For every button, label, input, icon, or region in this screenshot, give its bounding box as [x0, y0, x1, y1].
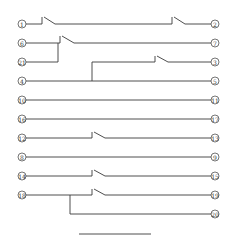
svg-text:15: 15	[211, 173, 219, 180]
svg-text:14: 14	[18, 173, 26, 180]
svg-text:12: 12	[18, 135, 26, 142]
circuit-3-4-5	[26, 56, 211, 81]
terminal-left-4: 4	[18, 77, 26, 85]
svg-text:4: 4	[20, 78, 24, 85]
terminal-right-15: 15	[211, 172, 219, 180]
svg-text:6: 6	[20, 40, 24, 47]
terminal-left-12: 12	[18, 134, 26, 142]
svg-text:9: 9	[213, 154, 217, 161]
circuit-12-13	[26, 132, 211, 138]
terminal-left-16: 16	[18, 115, 26, 123]
svg-text:7: 7	[213, 40, 217, 47]
svg-text:8: 8	[20, 154, 24, 161]
svg-text:16: 16	[18, 116, 26, 123]
terminal-left-14: 14	[18, 172, 26, 180]
terminal-right-11: 11	[211, 96, 219, 104]
terminal-left-1: 1	[18, 20, 26, 28]
svg-text:10: 10	[18, 97, 26, 104]
svg-text:19: 19	[211, 192, 219, 199]
terminal-right-19: 19	[211, 191, 219, 199]
terminal-right-20: 20	[211, 210, 219, 218]
terminal-left-10: 10	[18, 96, 26, 104]
terminal-right-17: 17	[211, 115, 219, 123]
svg-text:21: 21	[18, 59, 26, 66]
terminal-right-7: 7	[211, 39, 219, 47]
terminal-right-13: 13	[211, 134, 219, 142]
terminal-right-3: 3	[211, 58, 219, 66]
terminal-left-21: 21	[18, 58, 26, 66]
terminal-left-8: 8	[18, 153, 26, 161]
svg-text:3: 3	[213, 59, 217, 66]
svg-text:1: 1	[20, 21, 24, 28]
terminal-right-5: 5	[211, 77, 219, 85]
terminal-right-9: 9	[211, 153, 219, 161]
terminal-left-18: 18	[18, 191, 26, 199]
svg-text:18: 18	[18, 192, 26, 199]
svg-text:17: 17	[211, 116, 219, 123]
terminal-left-6: 6	[18, 39, 26, 47]
circuit-18-19-20	[26, 189, 211, 214]
svg-text:20: 20	[211, 211, 219, 218]
terminal-right-2: 2	[211, 20, 219, 28]
circuit-14-15	[26, 170, 211, 176]
svg-text:11: 11	[211, 97, 219, 104]
svg-text:13: 13	[211, 135, 219, 142]
circuit-6-7-21	[26, 36, 211, 62]
svg-text:2: 2	[213, 21, 217, 28]
svg-text:5: 5	[213, 78, 217, 85]
terminal-diagram: 1 6 21 4 10 16 12 8 14 18 2 7 3 5 11 17 …	[0, 0, 231, 249]
circuit-1-2	[26, 17, 211, 24]
